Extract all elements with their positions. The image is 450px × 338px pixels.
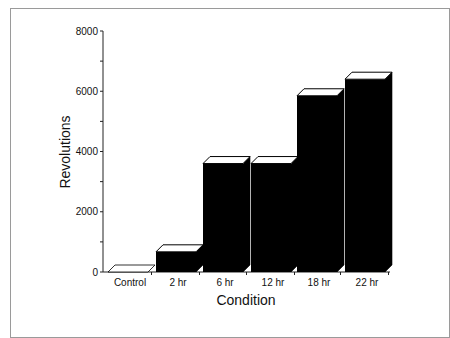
y-axis-title: Revolutions bbox=[57, 115, 73, 188]
y-tick-label: 8000 bbox=[76, 26, 99, 37]
bar bbox=[203, 157, 250, 272]
y-tick-label: 2000 bbox=[76, 206, 99, 217]
y-tick-label: 4000 bbox=[76, 146, 99, 157]
x-axis-labels: Control2 hr6 hr12 hr18 hr22 hr bbox=[114, 272, 389, 288]
x-tick-label: 2 hr bbox=[169, 277, 187, 288]
bars bbox=[108, 72, 392, 272]
bar bbox=[251, 157, 298, 272]
x-tick-label: 18 hr bbox=[308, 277, 331, 288]
x-tick-label: Control bbox=[114, 277, 146, 288]
bar bbox=[297, 89, 344, 272]
bar bbox=[108, 265, 155, 272]
bar bbox=[156, 245, 203, 272]
x-tick-label: 12 hr bbox=[262, 277, 285, 288]
y-tick-label: 0 bbox=[92, 267, 98, 278]
bar bbox=[345, 72, 392, 272]
x-tick-label: 22 hr bbox=[356, 277, 379, 288]
y-tick-label: 6000 bbox=[76, 86, 99, 97]
x-tick-label: 6 hr bbox=[216, 277, 234, 288]
x-axis-title: Condition bbox=[216, 292, 275, 308]
